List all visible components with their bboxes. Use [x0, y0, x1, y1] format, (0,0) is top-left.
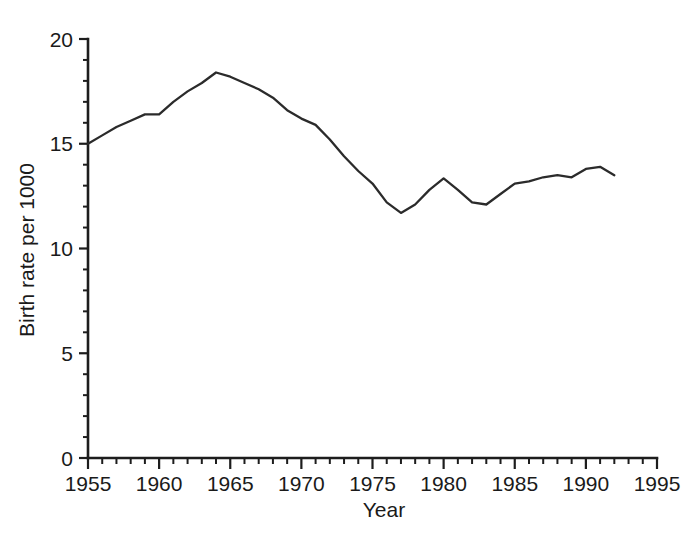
data-series-line: [88, 73, 614, 213]
y-tick-label: 10: [50, 237, 73, 260]
chart-figure: 0510152019551960196519701975198019851990…: [0, 0, 699, 539]
x-tick-label: 1965: [207, 472, 254, 495]
x-axis-title: Year: [363, 498, 405, 521]
x-tick-label: 1960: [136, 472, 183, 495]
x-tick-label: 1980: [420, 472, 467, 495]
x-tick-label: 1975: [349, 472, 396, 495]
x-tick-label: 1955: [65, 472, 112, 495]
y-tick-label: 5: [61, 342, 73, 365]
tick-labels-group: 0510152019551960196519701975198019851990…: [50, 28, 681, 496]
ticks-group: [79, 39, 657, 469]
x-tick-label: 1995: [634, 472, 681, 495]
y-tick-label: 15: [50, 132, 73, 155]
data-series-group: [88, 73, 614, 213]
y-tick-label: 20: [50, 28, 73, 51]
x-tick-label: 1970: [278, 472, 325, 495]
page-caption-partial: [0, 531, 699, 539]
y-axis-title: Birth rate per 1000: [15, 163, 38, 337]
y-tick-label: 0: [61, 447, 73, 470]
x-tick-label: 1985: [491, 472, 538, 495]
x-tick-label: 1990: [563, 472, 610, 495]
line-chart-canvas: 0510152019551960196519701975198019851990…: [0, 0, 699, 539]
